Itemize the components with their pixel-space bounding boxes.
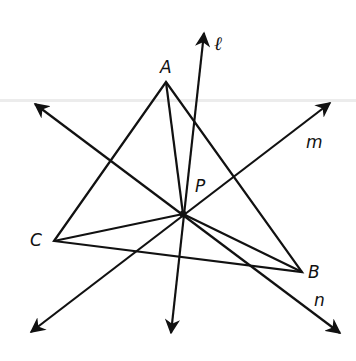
line-m <box>31 103 330 332</box>
label-p: P <box>195 176 206 196</box>
segment-pc <box>54 214 183 241</box>
point-p-dot <box>180 211 187 218</box>
label-a: A <box>159 57 172 77</box>
label-c: C <box>30 230 42 250</box>
segment-pb <box>183 214 302 272</box>
diagram-canvas: A B C P ℓ m n <box>0 0 356 361</box>
label-line-n: n <box>314 290 325 310</box>
label-line-l: ℓ <box>214 32 222 54</box>
line-n <box>35 104 340 333</box>
label-line-m: m <box>306 132 323 152</box>
geometry-diagram: A B C P ℓ m n <box>0 0 356 361</box>
label-b: B <box>308 262 320 282</box>
